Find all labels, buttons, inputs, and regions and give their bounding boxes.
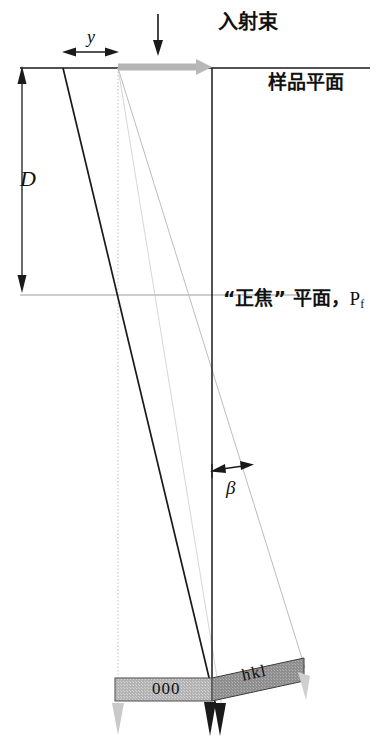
label-focus-plane-subscript: f (360, 297, 364, 311)
label-sample-plane: 样品平面 (268, 73, 344, 92)
figure-svg (0, 0, 392, 749)
label-distance-d: D (20, 168, 36, 190)
offset-y-dimension-arrow (62, 48, 119, 57)
label-focus-plane-symbol: P (350, 288, 361, 309)
incident-beam-arrow (153, 14, 163, 56)
label-bar-direct-000: 000 (152, 679, 181, 699)
angle-beta-arrow (210, 461, 254, 478)
label-incident-beam: 入射束 (218, 12, 278, 32)
label-focus-plane-text: “正焦” 平面， (223, 287, 350, 309)
incident-beam-gray-arrow (118, 59, 212, 75)
convergent-ray-line (63, 68, 218, 714)
label-offset-y: y (87, 28, 95, 46)
label-focus-plane: “正焦” 平面，Pf (223, 289, 364, 310)
label-angle-beta: β (226, 478, 235, 497)
diagram-canvas: 入射束 样品平面 “正焦” 平面，Pf D y β 000 hkl (0, 0, 392, 749)
